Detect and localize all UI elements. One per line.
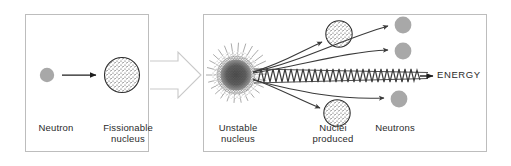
label-fissionable-nucleus: Fissionable nucleus [92, 122, 164, 144]
label-nuclei-produced: Nuclei produced [298, 122, 368, 144]
label-neutrons: Neutrons [362, 122, 428, 133]
label-unstable-nucleus: Unstable nucleus [202, 122, 274, 144]
label-neutron: Neutron [24, 122, 88, 133]
label-energy: ENERGY [437, 69, 481, 80]
process-block-arrow-icon [150, 52, 201, 98]
fission-diagram: Neutron Fissionable nucleus Unstable nuc… [0, 0, 511, 166]
